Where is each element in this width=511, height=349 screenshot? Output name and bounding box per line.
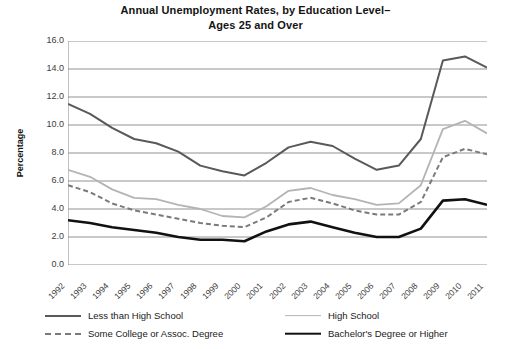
legend-label: Bachelor's Degree or Higher <box>328 328 448 339</box>
legend-item[interactable]: Bachelor's Degree or Higher <box>285 328 448 339</box>
legend-label: Less than High School <box>88 310 183 321</box>
x-tick-label: 2010 <box>443 281 463 301</box>
x-axis-tick-labels: 1992199319941995199619971998199920002001… <box>68 268 487 308</box>
legend-item[interactable]: Some College or Assoc. Degree <box>45 328 223 339</box>
y-tick-label: 0.0 <box>30 259 64 269</box>
x-tick-label: 2000 <box>222 281 242 301</box>
x-tick-label: 2002 <box>267 281 287 301</box>
y-axis-label: Percentage <box>15 113 25 193</box>
x-tick-label: 2007 <box>377 281 397 301</box>
x-tick-label: 2004 <box>311 281 331 301</box>
x-tick-label: 2006 <box>355 281 375 301</box>
legend-item[interactable]: High School <box>285 310 379 321</box>
x-tick-label: 1995 <box>112 281 132 301</box>
series-line <box>68 121 487 218</box>
chart-title-line-2: Ages 25 and Over <box>0 18 511 33</box>
legend-label: High School <box>328 310 379 321</box>
plot-area <box>68 41 487 265</box>
series-line <box>68 149 487 227</box>
x-tick-label: 2011 <box>465 281 485 301</box>
series-line <box>68 56 487 175</box>
y-tick-label: 8.0 <box>30 147 64 157</box>
x-tick-label: 1994 <box>90 281 110 301</box>
y-tick-label: 12.0 <box>30 91 64 101</box>
x-tick-label: 2003 <box>289 281 309 301</box>
chart-figure: Annual Unemployment Rates, by Education … <box>0 0 511 349</box>
x-tick-label: 2008 <box>399 281 419 301</box>
legend-swatch-icon <box>45 329 81 339</box>
x-tick-label: 1997 <box>156 281 176 301</box>
x-tick-label: 2005 <box>333 281 353 301</box>
y-tick-label: 14.0 <box>30 63 64 73</box>
x-tick-label: 2009 <box>421 281 441 301</box>
legend-swatch-icon <box>285 311 321 321</box>
y-tick-label: 6.0 <box>30 175 64 185</box>
y-tick-label: 16.0 <box>30 35 64 45</box>
y-tick-label: 2.0 <box>30 231 64 241</box>
chart-legend: Less than High SchoolHigh SchoolSome Col… <box>0 310 511 348</box>
chart-canvas <box>68 41 487 265</box>
legend-swatch-icon <box>285 329 321 339</box>
x-tick-label: 1998 <box>178 281 198 301</box>
series-line <box>68 199 487 241</box>
x-tick-label: 1999 <box>200 281 220 301</box>
y-tick-label: 4.0 <box>30 203 64 213</box>
x-tick-label: 1993 <box>68 281 88 301</box>
x-tick-label: 1992 <box>46 281 66 301</box>
x-tick-label: 2001 <box>245 281 265 301</box>
legend-swatch-icon <box>45 311 81 321</box>
x-tick-label: 1996 <box>134 281 154 301</box>
chart-title: Annual Unemployment Rates, by Education … <box>0 3 511 33</box>
y-tick-label: 10.0 <box>30 119 64 129</box>
chart-title-line-1: Annual Unemployment Rates, by Education … <box>0 3 511 18</box>
legend-item[interactable]: Less than High School <box>45 310 183 321</box>
y-axis-tick-labels: 16.014.012.010.08.06.04.02.00.0 <box>26 41 64 265</box>
legend-label: Some College or Assoc. Degree <box>88 328 223 339</box>
